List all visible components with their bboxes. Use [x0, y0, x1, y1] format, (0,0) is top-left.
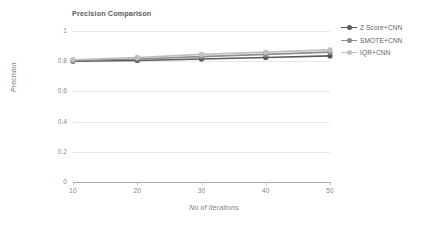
data-point [135, 55, 140, 60]
y-axis-title: Precision [10, 62, 17, 92]
x-tick-label: 20 [122, 187, 152, 194]
plot-area [73, 31, 330, 182]
y-tick-label: 0.2 [37, 148, 67, 155]
legend-marker-icon [341, 37, 357, 44]
y-tick-label: 0.4 [37, 118, 67, 125]
x-tick-mark [137, 182, 138, 185]
legend-item[interactable]: Z Score+CNN [341, 24, 402, 31]
x-tick-label: 50 [315, 187, 345, 194]
x-tick-mark [330, 182, 331, 185]
x-tick-label: 30 [187, 187, 217, 194]
legend-label: IQR+CNN [360, 49, 391, 56]
legend-dot-icon [347, 50, 352, 55]
x-tick-mark [202, 182, 203, 185]
legend-item[interactable]: SMOTE+CNN [341, 37, 402, 44]
chart-title: Precision Comparison [72, 9, 151, 18]
legend-dot-icon [347, 38, 352, 43]
y-tick-label: 0.8 [37, 57, 67, 64]
y-tick-label: 0.6 [37, 87, 67, 94]
y-tick-label: 0 [37, 178, 67, 185]
legend-item[interactable]: IQR+CNN [341, 49, 402, 56]
legend-label: Z Score+CNN [360, 24, 402, 31]
chart-legend: Z Score+CNNSMOTE+CNNIQR+CNN [341, 24, 402, 56]
data-point [327, 47, 332, 52]
series-layer [73, 31, 330, 182]
legend-label: SMOTE+CNN [360, 37, 402, 44]
x-axis-title: No of Iterations [0, 204, 428, 211]
x-tick-mark [266, 182, 267, 185]
x-tick-label: 40 [251, 187, 281, 194]
data-point [263, 50, 268, 55]
data-point [70, 57, 75, 62]
x-tick-mark [73, 182, 74, 185]
chart-container: Precision Comparison Precision 00.20.40.… [0, 0, 428, 232]
x-tick-label: 10 [58, 187, 88, 194]
y-tick-label: 1 [37, 27, 67, 34]
legend-marker-icon [341, 49, 357, 56]
legend-dot-icon [347, 25, 352, 30]
data-point [199, 52, 204, 57]
legend-marker-icon [341, 24, 357, 31]
